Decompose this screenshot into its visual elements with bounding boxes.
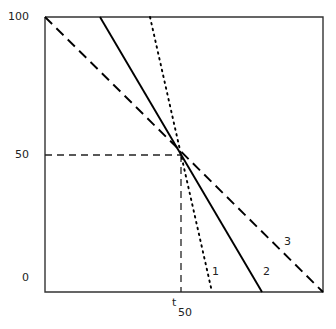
chart-plot-area: [0, 0, 336, 329]
chart-figure: 100 50 0 t50 1 2 3: [0, 0, 336, 329]
curve-label-3: 3: [284, 236, 291, 247]
curve-2-line: [100, 17, 262, 292]
x-axis-tick-t50: t50: [172, 297, 212, 318]
curve-label-1: 1: [212, 266, 219, 277]
curve-2: [100, 17, 262, 292]
x-axis-tick-t50-main: t: [172, 296, 176, 309]
x-axis-tick-t50-subscript: 50: [178, 307, 212, 318]
y-axis-tick-0: 0: [22, 272, 29, 283]
y-axis-tick-100: 100: [8, 11, 29, 22]
guide-lines: [45, 155, 181, 292]
curve-label-2: 2: [263, 266, 270, 277]
y-axis-tick-50: 50: [15, 149, 29, 160]
